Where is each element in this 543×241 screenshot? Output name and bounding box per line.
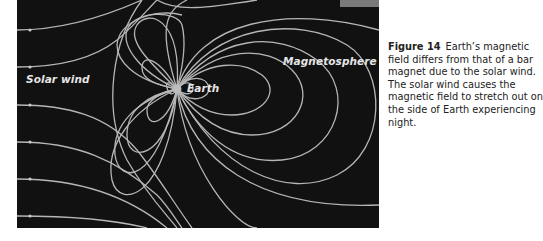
page-tab-decoration bbox=[340, 0, 379, 7]
figure-number: Figure 14 bbox=[388, 41, 441, 52]
field-lines-diagram bbox=[17, 0, 379, 228]
figure-caption: Figure 14Earth’s magnetic field differs … bbox=[388, 41, 543, 129]
magnetosphere-figure: Solar wind Earth Magnetosphere bbox=[17, 0, 379, 228]
magnetosphere-label: Magnetosphere bbox=[283, 55, 377, 67]
earth-label: Earth bbox=[187, 82, 219, 94]
caption-text: Earth’s magnetic field differs from that… bbox=[388, 41, 543, 128]
earth-icon bbox=[173, 85, 182, 94]
solar-wind-label: Solar wind bbox=[26, 73, 90, 85]
